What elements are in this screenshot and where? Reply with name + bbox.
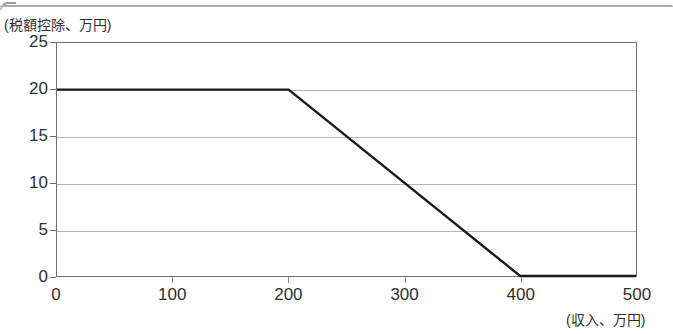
x-tick-label-100: 100 xyxy=(137,285,207,305)
y-tick-label-20: 20 xyxy=(8,79,48,99)
y-axis-tick-labels: 0510152025 xyxy=(0,42,48,277)
y-tick-mark-15 xyxy=(50,136,56,137)
x-tick-mark-400 xyxy=(521,277,522,283)
x-tick-mark-200 xyxy=(288,277,289,283)
y-tick-label-25: 25 xyxy=(8,32,48,52)
x-tick-mark-300 xyxy=(405,277,406,283)
series-polyline-tax-credit xyxy=(57,90,636,276)
document-top-rule xyxy=(0,5,673,7)
series-line-chart xyxy=(57,43,636,276)
y-tick-label-5: 5 xyxy=(8,220,48,240)
plot-area xyxy=(56,42,637,277)
y-tick-mark-20 xyxy=(50,89,56,90)
x-tick-mark-100 xyxy=(172,277,173,283)
y-axis-title: (税額控除、万円) xyxy=(4,14,111,34)
y-tick-mark-10 xyxy=(50,183,56,184)
x-tick-label-200: 200 xyxy=(253,285,323,305)
x-tick-label-300: 300 xyxy=(370,285,440,305)
x-tick-label-400: 400 xyxy=(486,285,556,305)
y-tick-mark-0 xyxy=(50,277,56,278)
y-tick-mark-5 xyxy=(50,230,56,231)
y-tick-label-0: 0 xyxy=(8,267,48,287)
x-tick-label-500: 500 xyxy=(602,285,672,305)
x-tick-label-0: 0 xyxy=(21,285,91,305)
y-tick-label-10: 10 xyxy=(8,173,48,193)
y-tick-label-15: 15 xyxy=(8,126,48,146)
y-tick-mark-25 xyxy=(50,42,56,43)
x-axis-tick-labels: 0100200300400500 xyxy=(0,285,673,309)
x-axis-title: (収入、万円) xyxy=(566,309,645,329)
document-top-rule-left-corner xyxy=(0,2,16,10)
